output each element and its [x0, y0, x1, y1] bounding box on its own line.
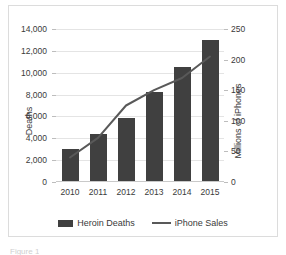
- bar-swatch-icon: [58, 220, 73, 227]
- x-axis-ticklabel: 2010: [55, 188, 85, 197]
- right-axis-ticklabel: 250: [231, 25, 245, 34]
- x-axis-baseline: [56, 181, 224, 182]
- left-axis-ticklabel: 12,000: [21, 47, 47, 56]
- right-axis-tick: [224, 121, 228, 122]
- left-axis-ticklabel: 6,000: [26, 112, 47, 121]
- x-axis-ticklabel: 2013: [139, 188, 169, 197]
- legend-item-iphone-sales: iPhone Sales: [152, 218, 228, 228]
- right-axis-ticklabel: 100: [231, 117, 245, 126]
- figure-caption: Figure 1: [10, 247, 39, 255]
- right-axis-ticklabel: 150: [231, 86, 245, 95]
- line-series-iphone-sales: [56, 29, 224, 182]
- left-axis-ticklabel: 14,000: [21, 25, 47, 34]
- right-axis-ticklabel: 0: [231, 178, 236, 187]
- right-axis-tick: [224, 29, 228, 30]
- left-axis-tick: [52, 182, 56, 183]
- right-axis-ticklabel: 50: [231, 147, 240, 156]
- chart-frame: Deaths Millions of iPhones 02,0004,0006,…: [8, 5, 278, 237]
- right-axis-tick: [224, 151, 228, 152]
- right-axis-tick: [224, 182, 228, 183]
- chart-legend: Heroin Deaths iPhone Sales: [9, 218, 277, 228]
- left-axis-ticklabel: 10,000: [21, 69, 47, 78]
- right-axis-ticklabel: 200: [231, 56, 245, 65]
- x-axis-ticklabel: 2011: [83, 188, 113, 197]
- left-axis-ticklabel: 8,000: [26, 91, 47, 100]
- plot-area: [56, 29, 224, 182]
- x-axis-ticklabel: 2012: [111, 188, 141, 197]
- line-swatch-icon: [152, 222, 171, 224]
- left-axis-ticklabel: 2,000: [26, 156, 47, 165]
- x-axis-ticklabel: 2014: [167, 188, 197, 197]
- left-axis-ticklabel: 0: [42, 178, 47, 187]
- legend-label-heroin-deaths: Heroin Deaths: [77, 218, 135, 228]
- x-axis-ticklabel: 2015: [195, 188, 225, 197]
- legend-item-heroin-deaths: Heroin Deaths: [58, 218, 135, 228]
- right-axis-tick: [224, 90, 228, 91]
- left-axis-ticklabel: 4,000: [26, 134, 47, 143]
- right-axis-tick: [224, 60, 228, 61]
- legend-label-iphone-sales: iPhone Sales: [175, 218, 228, 228]
